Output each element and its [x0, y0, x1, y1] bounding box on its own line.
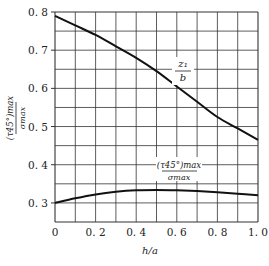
y-tick-label: 0. 4: [28, 159, 48, 171]
x-tick-label: 0: [52, 226, 59, 238]
y-tick-label: 0. 3: [28, 197, 48, 209]
y-axis-label-num: (τ45°)max: [5, 96, 15, 141]
y-tick-label: 0. 6: [28, 82, 48, 94]
y-tick-label: 0. 8: [28, 6, 48, 18]
curve-label-tau-sigma: (τ45°)max σmax: [156, 157, 202, 182]
x-axis-label: h/a: [142, 245, 158, 256]
x-tick-label: 0. 4: [126, 226, 146, 238]
chart: 00. 20. 40. 60. 81. 00. 30. 40. 50. 60. …: [0, 0, 269, 266]
y-axis-label: (τ45°)max σmax: [5, 96, 27, 141]
y-tick-label: 0. 7: [28, 44, 48, 56]
x-tick-label: 0. 6: [167, 226, 187, 238]
curve-label-b: b: [180, 72, 186, 83]
curve-label-z1-b: z₁ b: [172, 57, 194, 85]
x-tick-label: 0. 2: [86, 226, 106, 238]
curve-label-z1: z₁: [177, 58, 187, 69]
x-tick-label: 0. 8: [207, 226, 227, 238]
x-tick-label: 1. 0: [248, 226, 268, 238]
y-tick-label: 0. 5: [28, 121, 48, 133]
curve-label-tau: (τ45°)max: [157, 160, 202, 170]
y-axis-label-den: σmax: [18, 106, 27, 129]
curve-label-sigma: σmax: [168, 173, 191, 182]
